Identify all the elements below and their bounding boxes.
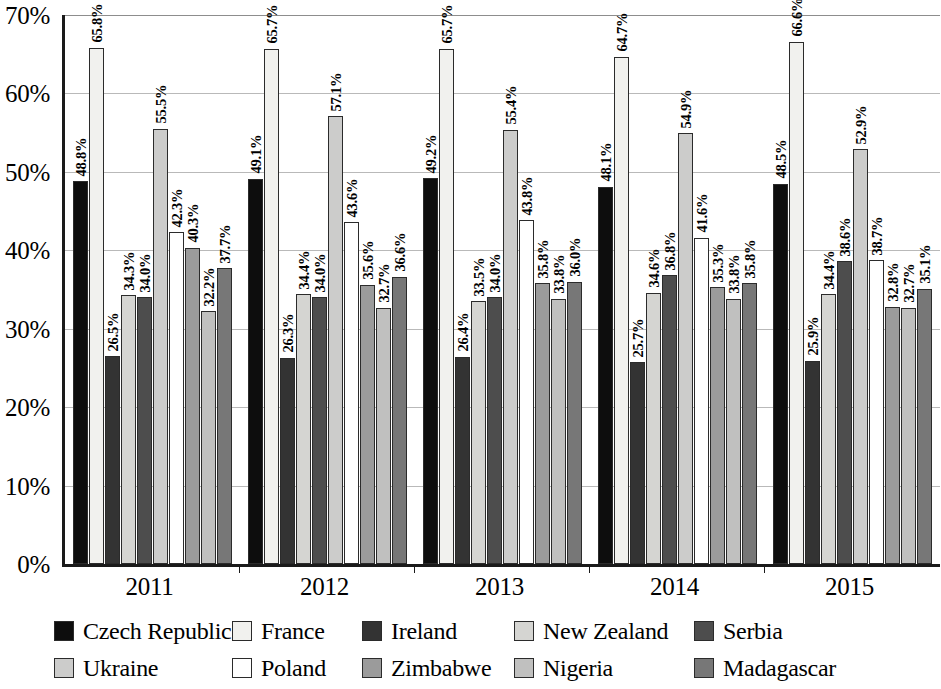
y-axis: 0%10%20%30%40%50%60%70% xyxy=(0,0,56,580)
bar[interactable]: 35.8% xyxy=(742,283,757,564)
bar-value-label: 34.0% xyxy=(487,253,502,292)
bar[interactable]: 36.8% xyxy=(662,275,677,564)
bar[interactable]: 32.7% xyxy=(901,308,916,564)
bar[interactable]: 34.4% xyxy=(296,294,311,564)
bar-slot: 65.7% xyxy=(264,15,279,564)
bar[interactable]: 34.3% xyxy=(121,295,136,564)
bar[interactable]: 49.2% xyxy=(423,178,438,564)
legend-item-poland[interactable]: Poland xyxy=(232,656,362,680)
bar[interactable]: 36.6% xyxy=(392,277,407,564)
legend-swatch-icon xyxy=(362,658,382,678)
bar[interactable]: 66.6% xyxy=(789,42,804,564)
bar[interactable]: 64.7% xyxy=(614,57,629,564)
bar[interactable]: 32.2% xyxy=(201,311,216,564)
bar[interactable]: 36.0% xyxy=(567,282,582,564)
bar[interactable]: 38.6% xyxy=(837,261,852,564)
bar[interactable]: 48.5% xyxy=(773,184,788,564)
bar[interactable]: 32.7% xyxy=(376,308,391,564)
bar[interactable]: 40.3% xyxy=(185,248,200,564)
bar[interactable]: 49.1% xyxy=(248,179,263,564)
y-axis-tick-label: 70% xyxy=(5,3,50,28)
bar[interactable]: 65.7% xyxy=(264,49,279,564)
bar[interactable]: 42.3% xyxy=(169,232,184,564)
bar-value-label: 26.3% xyxy=(280,314,295,353)
bar-slot: 65.7% xyxy=(439,15,454,564)
bar[interactable]: 48.1% xyxy=(598,187,613,564)
bar[interactable]: 34.0% xyxy=(487,297,502,564)
bar[interactable]: 26.4% xyxy=(455,357,470,564)
bar-slot: 33.8% xyxy=(726,15,741,564)
bar[interactable]: 33.8% xyxy=(551,299,566,564)
bar[interactable]: 35.3% xyxy=(710,287,725,564)
bar[interactable]: 43.6% xyxy=(344,222,359,564)
y-axis-tick-label: 20% xyxy=(5,395,50,420)
legend-item-ireland[interactable]: Ireland xyxy=(362,619,514,643)
bar[interactable]: 41.6% xyxy=(694,238,709,564)
bar-value-label: 65.7% xyxy=(264,5,279,44)
bar-slot: 26.5% xyxy=(105,15,120,564)
bar[interactable]: 48.8% xyxy=(73,181,88,564)
legend-swatch-icon xyxy=(694,658,714,678)
bar[interactable]: 65.8% xyxy=(89,48,104,564)
legend-label: Zimbabwe xyxy=(391,656,491,680)
bar[interactable]: 26.5% xyxy=(105,356,120,564)
bar-slot: 52.9% xyxy=(853,15,868,564)
bar[interactable]: 33.8% xyxy=(726,299,741,564)
bar[interactable]: 35.1% xyxy=(917,289,932,564)
bar[interactable]: 65.7% xyxy=(439,49,454,564)
legend-item-czech-republic[interactable]: Czech Republic xyxy=(54,619,232,643)
bar[interactable]: 35.8% xyxy=(535,283,550,564)
legend-item-zimbabwe[interactable]: Zimbabwe xyxy=(362,656,514,680)
bar[interactable]: 38.7% xyxy=(869,260,884,564)
bar[interactable]: 55.5% xyxy=(153,129,168,564)
bar[interactable]: 34.0% xyxy=(137,297,152,564)
bar[interactable]: 43.8% xyxy=(519,220,534,564)
bar-group-2013: 49.2%65.7%26.4%33.5%34.0%55.4%43.8%35.8%… xyxy=(415,15,590,564)
bar[interactable]: 55.4% xyxy=(503,130,518,564)
bar[interactable]: 32.8% xyxy=(885,307,900,564)
bar-slot: 49.2% xyxy=(423,15,438,564)
bar[interactable]: 34.6% xyxy=(646,293,661,564)
bar-slot: 41.6% xyxy=(694,15,709,564)
bar-slot: 32.2% xyxy=(201,15,216,564)
legend-item-madagascar[interactable]: Madagascar xyxy=(694,656,894,680)
bar-value-label: 33.8% xyxy=(551,255,566,294)
legend-label: Serbia xyxy=(723,619,783,643)
bar[interactable]: 34.0% xyxy=(312,297,327,564)
legend-item-new-zealand[interactable]: New Zealand xyxy=(514,619,694,643)
bar-slot: 32.8% xyxy=(885,15,900,564)
bar-value-label: 55.4% xyxy=(503,86,518,125)
legend-swatch-icon xyxy=(362,621,382,641)
bar[interactable]: 35.6% xyxy=(360,285,375,564)
legend-item-nigeria[interactable]: Nigeria xyxy=(514,656,694,680)
bar-slot: 42.3% xyxy=(169,15,184,564)
bar-slot: 55.5% xyxy=(153,15,168,564)
bar-slot: 38.6% xyxy=(837,15,852,564)
legend-item-ukraine[interactable]: Ukraine xyxy=(54,656,232,680)
legend-item-france[interactable]: France xyxy=(232,619,362,643)
bar-value-label: 34.6% xyxy=(646,249,661,288)
bar-value-label: 35.8% xyxy=(742,239,757,278)
bar-value-label: 35.1% xyxy=(917,245,932,284)
legend-swatch-icon xyxy=(232,621,252,641)
bar-value-label: 36.0% xyxy=(567,238,582,277)
bar[interactable]: 25.7% xyxy=(630,362,645,564)
bar[interactable]: 54.9% xyxy=(678,133,693,564)
bar[interactable]: 37.7% xyxy=(217,268,232,564)
bar-slot: 43.8% xyxy=(519,15,534,564)
y-axis-tick-label: 50% xyxy=(5,159,50,184)
bar[interactable]: 25.9% xyxy=(805,361,820,564)
y-axis-tick-label: 40% xyxy=(5,238,50,263)
bar[interactable]: 34.4% xyxy=(821,294,836,564)
bar[interactable]: 52.9% xyxy=(853,149,868,564)
bar-value-label: 26.5% xyxy=(105,312,120,351)
legend-item-serbia[interactable]: Serbia xyxy=(694,619,894,643)
bar-slot: 64.7% xyxy=(614,15,629,564)
bar-slot: 32.7% xyxy=(376,15,391,564)
bar-value-label: 48.8% xyxy=(73,137,88,176)
bar-value-label: 57.1% xyxy=(328,72,343,111)
bar[interactable]: 57.1% xyxy=(328,116,343,564)
bar[interactable]: 26.3% xyxy=(280,358,295,564)
bar[interactable]: 33.5% xyxy=(471,301,486,564)
bar-slot: 37.7% xyxy=(217,15,232,564)
